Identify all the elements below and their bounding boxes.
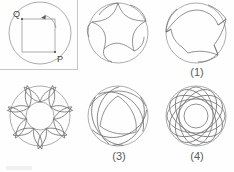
panel-4 (80, 84, 156, 150)
figure-sheet: Q P (1) (2) (0, 0, 234, 172)
panel-1-outer-circle (88, 3, 148, 63)
panel-5-inner-circle (184, 104, 208, 128)
panel-5-caption: (5) (158, 150, 234, 162)
panel-3-petals (8, 85, 72, 149)
panel-5 (158, 84, 234, 150)
page-edge-artifact (6, 166, 32, 170)
panel-5-ellipses (162, 84, 229, 150)
panel-3-inner-circle (26, 102, 54, 130)
panel-1-curve-tail-d (130, 5, 146, 21)
panel-1 (80, 1, 156, 67)
point-p-dot (54, 51, 56, 53)
panel-2-outer-circle (166, 3, 226, 63)
construction-diagram-panel: Q P (0, 0, 80, 78)
panel-4-inner-triangle (100, 96, 136, 134)
panel-2-curve (166, 10, 226, 55)
point-q-dot (21, 18, 23, 20)
panel-1-curve-tail-c (134, 37, 144, 51)
panel-2 (158, 1, 234, 67)
inscribed-square (22, 19, 55, 52)
panel-5-outer-circle (166, 86, 226, 146)
panel-3 (2, 84, 78, 150)
panel-3-petals-mirror (7, 85, 71, 149)
point-p-label: P (57, 54, 63, 64)
panel-2-caption: (2) (158, 66, 234, 78)
rotation-arc (44, 15, 56, 28)
point-q-label: Q (13, 9, 20, 19)
panel-4-arcs (82, 84, 153, 150)
